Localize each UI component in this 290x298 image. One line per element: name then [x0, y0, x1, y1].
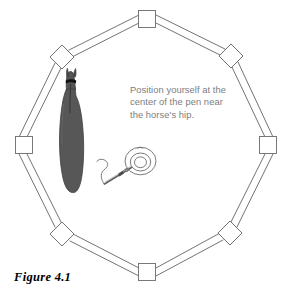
fence-panel-top-left	[69, 15, 139, 57]
post-bottom-left	[50, 222, 74, 246]
handler-head-icon	[135, 157, 147, 168]
post-right	[260, 137, 277, 154]
horse-silhouette	[60, 68, 84, 192]
figure-caption: Figure 4.1	[14, 270, 71, 285]
horse-body-icon	[60, 85, 84, 192]
fence-panel-bottom-left	[70, 234, 139, 276]
round-pen-diagram	[0, 0, 290, 298]
fence-posts	[16, 11, 277, 281]
fence-panel-right-upper	[231, 62, 273, 137]
post-top	[139, 11, 156, 28]
whip-lash-icon	[97, 159, 108, 184]
figure-container: Position yourself at the center of the p…	[0, 0, 290, 298]
fence-panel-left-upper	[19, 63, 62, 137]
fence-panel-right-lower	[230, 154, 273, 227]
horse-ear-right-icon	[73, 68, 76, 76]
fence-panel-bottom-right	[156, 233, 223, 276]
fence-panel-top-right	[156, 15, 225, 56]
horse-ear-left-icon	[66, 68, 68, 76]
post-left	[16, 137, 33, 154]
post-bottom	[139, 264, 156, 281]
whip-grip-icon	[119, 171, 124, 176]
whip-ferrule-icon	[125, 169, 128, 172]
fence-panel-left-lower	[19, 154, 62, 227]
